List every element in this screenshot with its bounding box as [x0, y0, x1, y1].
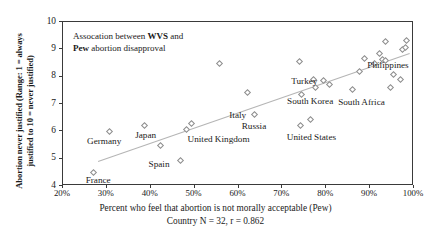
y-tick-label: 10: [40, 16, 56, 26]
x-tick-label: 30%: [89, 188, 123, 198]
data-point-marker: [141, 122, 148, 129]
chart-subcaption: Country N = 32, r = 0.862: [0, 216, 431, 226]
plot-annotation-line1: Assocation between WVS and: [73, 31, 183, 43]
data-point-marker: [296, 58, 303, 65]
x-tick-mark: [369, 185, 370, 188]
data-point-marker: [390, 71, 397, 78]
data-point-marker: [297, 122, 304, 129]
annotation-text-post2: abortion disapproval: [89, 43, 165, 53]
x-tick-label: 70%: [264, 188, 298, 198]
data-point-marker: [188, 120, 195, 127]
annotation-wvs: WVS: [147, 31, 168, 41]
x-tick-label: 50%: [177, 188, 211, 198]
scatter-plot-figure: Abortion never justified (Range: 1 = alw…: [0, 0, 431, 239]
data-point-marker: [251, 111, 258, 118]
point-label: United States: [287, 132, 336, 142]
x-tick-mark: [413, 185, 414, 188]
data-point-marker: [106, 128, 113, 135]
plot-area: Assocation between WVS and Pew abortion …: [62, 21, 413, 185]
point-label: Russia: [242, 121, 267, 131]
y-tick-label: 5: [40, 152, 56, 162]
x-tick-label: 80%: [308, 188, 342, 198]
data-point-marker: [397, 76, 404, 83]
data-point-marker: [216, 59, 223, 66]
point-label: Turkey: [291, 76, 317, 86]
y-tick-label: 6: [40, 125, 56, 135]
point-label: France: [86, 175, 111, 185]
point-label: United Kingdom: [188, 134, 250, 144]
data-point-marker: [356, 68, 363, 75]
y-axis-title-line1: Abortion never justified (Range: 1 = alw…: [14, 16, 25, 206]
plot-annotation-line2: Pew abortion disapproval: [73, 43, 183, 55]
data-point-marker: [381, 38, 388, 45]
x-tick-mark: [281, 185, 282, 188]
y-tick-label: 9: [40, 43, 56, 53]
x-tick-label: 20%: [45, 188, 79, 198]
point-label: Japan: [135, 130, 156, 140]
x-tick-mark: [194, 185, 195, 188]
x-tick-mark: [106, 185, 107, 188]
annotation-pew: Pew: [73, 43, 89, 53]
data-point-marker: [183, 126, 190, 133]
x-axis-title: Percent who feel that abortion is not mo…: [0, 203, 431, 213]
x-tick-mark: [150, 185, 151, 188]
point-label: South Korea: [287, 96, 333, 106]
data-point-marker: [244, 89, 251, 96]
x-tick-label: 100%: [396, 188, 430, 198]
y-tick-label: 8: [40, 70, 56, 80]
y-tick-label: 7: [40, 98, 56, 108]
data-point-marker: [177, 157, 184, 164]
point-label: Philippines: [367, 60, 408, 70]
data-point-marker: [349, 86, 356, 93]
point-label: Spain: [149, 159, 170, 169]
x-tick-label: 90%: [352, 188, 386, 198]
point-label: Germany: [87, 136, 121, 146]
data-point-marker: [157, 142, 164, 149]
annotation-text-pre: Assocation between: [73, 31, 147, 41]
data-point-marker: [387, 84, 394, 91]
data-point-marker: [306, 115, 313, 122]
point-label: Italy: [229, 110, 246, 120]
x-tick-mark: [325, 185, 326, 188]
plot-annotation: Assocation between WVS and Pew abortion …: [73, 31, 183, 54]
x-tick-mark: [62, 185, 63, 188]
data-point-marker: [403, 37, 410, 44]
annotation-text-post: and: [168, 31, 183, 41]
x-tick-mark: [238, 185, 239, 188]
x-tick-label: 60%: [221, 188, 255, 198]
y-axis-title-line2: justified to 10 = never justified): [25, 16, 36, 206]
point-label: South Africa: [338, 97, 385, 107]
data-point-marker: [326, 81, 333, 88]
x-tick-label: 40%: [133, 188, 167, 198]
